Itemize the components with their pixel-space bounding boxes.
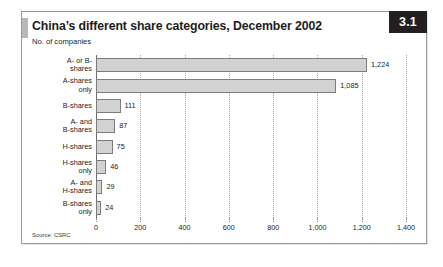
category-label: B-shares — [30, 102, 96, 110]
gridline — [406, 55, 407, 218]
bar-row: 1,085A-sharesonly — [96, 79, 406, 93]
bar — [96, 180, 102, 194]
x-axis-tick-label: 200 — [134, 223, 146, 232]
bar — [96, 140, 113, 154]
bar-value-label: 87 — [119, 121, 127, 130]
category-label: B-sharesonly — [30, 200, 96, 216]
bar — [96, 160, 106, 174]
category-label: A- andH-shares — [30, 179, 96, 195]
bar-value-label: 1,085 — [340, 81, 358, 90]
category-label: A-sharesonly — [30, 77, 96, 93]
bar-value-label: 1,224 — [371, 60, 389, 69]
x-axis-tick — [273, 218, 274, 222]
plot-area: 02004006008001,0001,2001,4001,224A- or B… — [96, 55, 406, 218]
source-note: Source: CSRC — [32, 232, 71, 238]
bar — [96, 119, 115, 133]
bar-value-label: 29 — [106, 182, 114, 191]
x-axis-tick-label: 800 — [267, 223, 279, 232]
bar-row: 1,224A- or B-shares — [96, 58, 406, 72]
chart-title: China’s different share categories, Dece… — [32, 19, 322, 33]
bar-row: 46H-sharesonly — [96, 160, 406, 174]
category-label: H-sharesonly — [30, 159, 96, 175]
chart-subtitle: No. of companies — [32, 37, 91, 46]
category-label: A- andB-shares — [30, 118, 96, 134]
figure-root: 3.1 China’s different share categories, … — [0, 0, 443, 267]
bar-row: 29A- andH-shares — [96, 180, 406, 194]
x-axis-tick — [317, 218, 318, 222]
x-axis-tick-label: 400 — [179, 223, 191, 232]
bar-value-label: 46 — [110, 162, 118, 171]
bar-value-label: 111 — [125, 101, 136, 110]
x-axis-tick — [140, 218, 141, 222]
bar-row: 75H-shares — [96, 140, 406, 154]
x-axis-tick-label: 1,000 — [308, 223, 326, 232]
x-axis-tick-label: 1,200 — [353, 223, 371, 232]
bar-row: 87A- andB-shares — [96, 119, 406, 133]
category-label: A- or B-shares — [30, 57, 96, 73]
bar — [96, 201, 101, 215]
x-axis-tick-label: 600 — [223, 223, 235, 232]
bar-row: 24B-sharesonly — [96, 201, 406, 215]
x-axis-tick — [96, 218, 97, 222]
figure-number-badge: 3.1 — [389, 11, 427, 33]
category-label: H-shares — [30, 143, 96, 151]
bar-row: 111B-shares — [96, 99, 406, 113]
title-accent-bar — [22, 18, 28, 38]
bar — [96, 58, 367, 72]
bar-value-label: 75 — [117, 142, 125, 151]
x-axis-tick — [229, 218, 230, 222]
x-axis-tick — [406, 218, 407, 222]
x-axis-tick-label: 0 — [94, 223, 98, 232]
x-axis-tick — [362, 218, 363, 222]
bar — [96, 99, 121, 113]
figure-frame: 3.1 China’s different share categories, … — [21, 11, 427, 244]
bar-value-label: 24 — [105, 203, 113, 212]
x-axis-tick — [185, 218, 186, 222]
bar — [96, 79, 336, 93]
x-axis-tick-label: 1,400 — [397, 223, 415, 232]
